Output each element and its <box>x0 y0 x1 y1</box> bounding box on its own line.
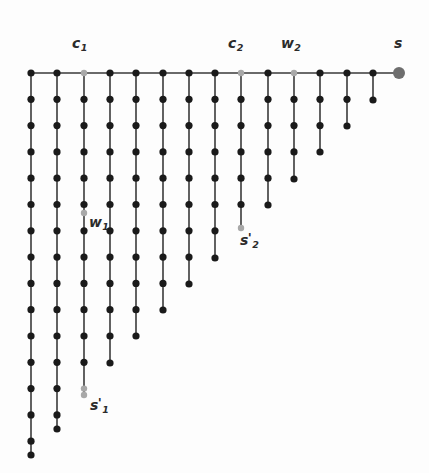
graph-node[interactable] <box>106 306 113 313</box>
graph-node[interactable] <box>53 122 60 129</box>
graph-node[interactable] <box>211 175 218 182</box>
graph-node[interactable] <box>27 69 34 76</box>
graph-node[interactable] <box>132 201 139 208</box>
graph-node[interactable] <box>185 254 192 261</box>
graph-node[interactable] <box>185 148 192 155</box>
graph-node[interactable] <box>80 280 87 287</box>
graph-node[interactable] <box>237 201 244 208</box>
graph-node[interactable] <box>106 332 113 339</box>
graph-node[interactable] <box>80 359 87 366</box>
graph-node[interactable] <box>185 227 192 234</box>
marked-node-s1prime[interactable] <box>81 385 87 391</box>
graph-node[interactable] <box>106 122 113 129</box>
graph-node[interactable] <box>132 227 139 234</box>
graph-node[interactable] <box>237 175 244 182</box>
graph-node[interactable] <box>80 148 87 155</box>
graph-node[interactable] <box>106 175 113 182</box>
graph-node[interactable] <box>264 201 271 208</box>
graph-node[interactable] <box>316 148 323 155</box>
graph-node[interactable] <box>80 122 87 129</box>
graph-node[interactable] <box>53 385 60 392</box>
graph-node[interactable] <box>27 201 34 208</box>
graph-node[interactable] <box>185 122 192 129</box>
graph-node[interactable] <box>27 96 34 103</box>
graph-node[interactable] <box>159 201 166 208</box>
graph-node[interactable] <box>80 306 87 313</box>
graph-node[interactable] <box>132 332 139 339</box>
graph-node[interactable] <box>80 227 87 234</box>
graph-node[interactable] <box>27 306 34 313</box>
graph-node[interactable] <box>132 148 139 155</box>
graph-node[interactable] <box>264 122 271 129</box>
graph-node[interactable] <box>185 280 192 287</box>
graph-node[interactable] <box>53 306 60 313</box>
graph-node[interactable] <box>132 69 139 76</box>
graph-node[interactable] <box>159 122 166 129</box>
graph-node[interactable] <box>80 332 87 339</box>
graph-node[interactable] <box>132 280 139 287</box>
graph-node[interactable] <box>211 122 218 129</box>
graph-node[interactable] <box>343 69 350 76</box>
marked-node-s1prime[interactable] <box>81 392 87 398</box>
graph-node[interactable] <box>369 69 376 76</box>
graph-node[interactable] <box>53 359 60 366</box>
graph-node[interactable] <box>159 96 166 103</box>
graph-node[interactable] <box>316 96 323 103</box>
graph-node[interactable] <box>290 122 297 129</box>
graph-node[interactable] <box>53 332 60 339</box>
graph-node[interactable] <box>316 69 323 76</box>
graph-node[interactable] <box>80 175 87 182</box>
graph-node[interactable] <box>27 438 34 445</box>
graph-node[interactable] <box>106 148 113 155</box>
graph-node[interactable] <box>237 148 244 155</box>
graph-node[interactable] <box>290 175 297 182</box>
graph-node[interactable] <box>132 122 139 129</box>
graph-node[interactable] <box>290 96 297 103</box>
graph-node[interactable] <box>53 411 60 418</box>
graph-node[interactable] <box>264 69 271 76</box>
graph-node[interactable] <box>264 96 271 103</box>
graph-node[interactable] <box>53 201 60 208</box>
graph-node[interactable] <box>106 96 113 103</box>
graph-node[interactable] <box>27 332 34 339</box>
marked-node-w1[interactable] <box>81 210 87 216</box>
graph-node[interactable] <box>27 280 34 287</box>
graph-node[interactable] <box>159 175 166 182</box>
graph-node[interactable] <box>27 175 34 182</box>
graph-node[interactable] <box>53 227 60 234</box>
graph-node[interactable] <box>80 254 87 261</box>
graph-node[interactable] <box>211 69 218 76</box>
graph-node[interactable] <box>159 280 166 287</box>
graph-node[interactable] <box>316 122 323 129</box>
graph-node[interactable] <box>185 175 192 182</box>
graph-node[interactable] <box>53 148 60 155</box>
graph-node[interactable] <box>132 306 139 313</box>
graph-node[interactable] <box>211 148 218 155</box>
graph-node[interactable] <box>211 254 218 261</box>
graph-node[interactable] <box>211 96 218 103</box>
marked-node-w2[interactable] <box>291 70 297 76</box>
graph-node[interactable] <box>264 175 271 182</box>
graph-node[interactable] <box>53 175 60 182</box>
graph-node[interactable] <box>106 280 113 287</box>
graph-node[interactable] <box>237 96 244 103</box>
graph-node[interactable] <box>343 96 350 103</box>
graph-node[interactable] <box>185 69 192 76</box>
marked-node-c1[interactable] <box>81 70 87 76</box>
graph-node[interactable] <box>106 254 113 261</box>
source-node-s[interactable] <box>393 67 405 79</box>
graph-node[interactable] <box>53 96 60 103</box>
graph-node[interactable] <box>80 201 87 208</box>
graph-node[interactable] <box>53 425 60 432</box>
graph-node[interactable] <box>53 69 60 76</box>
graph-node[interactable] <box>159 148 166 155</box>
graph-node[interactable] <box>159 69 166 76</box>
graph-node[interactable] <box>53 280 60 287</box>
graph-node[interactable] <box>27 227 34 234</box>
graph-node[interactable] <box>132 254 139 261</box>
graph-node[interactable] <box>237 122 244 129</box>
graph-node[interactable] <box>211 201 218 208</box>
graph-node[interactable] <box>159 254 166 261</box>
graph-node[interactable] <box>159 227 166 234</box>
graph-node[interactable] <box>290 148 297 155</box>
